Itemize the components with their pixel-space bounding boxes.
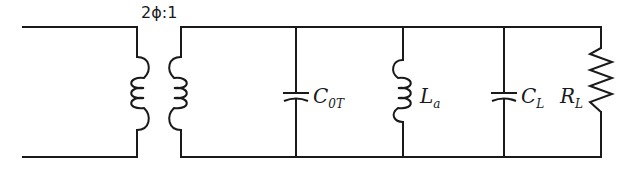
label-cl-symbol: C [521,84,536,108]
label-rl-subscript: L [575,97,583,111]
inductor-la-icon [393,27,411,157]
primary-circuit [23,27,149,157]
resistor-rl-icon [590,48,612,112]
capacitor-c0t-icon [284,27,308,157]
label-rl: RL [560,84,583,108]
label-la: La [420,84,440,108]
label-la-symbol: L [420,84,433,108]
label-la-subscript: a [433,97,440,111]
primary-winding-icon [131,57,148,130]
secondary-winding-icon [169,57,186,130]
capacitor-cl-icon [492,27,516,157]
label-cl-subscript: L [536,97,544,111]
label-cl: CL [521,84,544,108]
label-rl-symbol: R [560,84,575,108]
label-c0t-subscript: 0T [328,97,344,111]
turns-ratio-label: 2ϕ:1 [141,3,177,22]
label-c0t-symbol: C [313,84,328,108]
label-c0t: C0T [313,84,344,108]
